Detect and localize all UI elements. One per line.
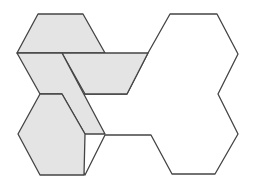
geometric-diagram [0,0,255,186]
top-trapezoid [17,14,105,53]
